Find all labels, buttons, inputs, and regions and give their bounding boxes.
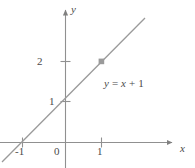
x-tick-label-neg1: -1	[15, 146, 24, 157]
equation-equals: =	[112, 77, 118, 89]
y-tick-label-2: 2	[37, 56, 43, 67]
equation-constant: 1	[138, 77, 144, 89]
plot-canvas	[0, 0, 195, 168]
graph-figure: y x 2 1 0 -1 1 y=x+1	[0, 0, 195, 168]
x-axis-label: x	[180, 143, 185, 154]
line-y-equals-x-plus-1	[2, 18, 145, 162]
equation-rhs-var: x	[121, 77, 126, 89]
point-marker-1-2	[99, 59, 105, 65]
x-tick-label-1: 1	[97, 146, 103, 157]
equation-plus: +	[129, 77, 135, 89]
origin-label: 0	[54, 146, 60, 157]
equation-lhs: y	[104, 77, 109, 89]
y-tick-label-1: 1	[49, 96, 55, 107]
y-axis-label: y	[71, 4, 76, 15]
equation-annotation: y=x+1	[104, 78, 144, 89]
